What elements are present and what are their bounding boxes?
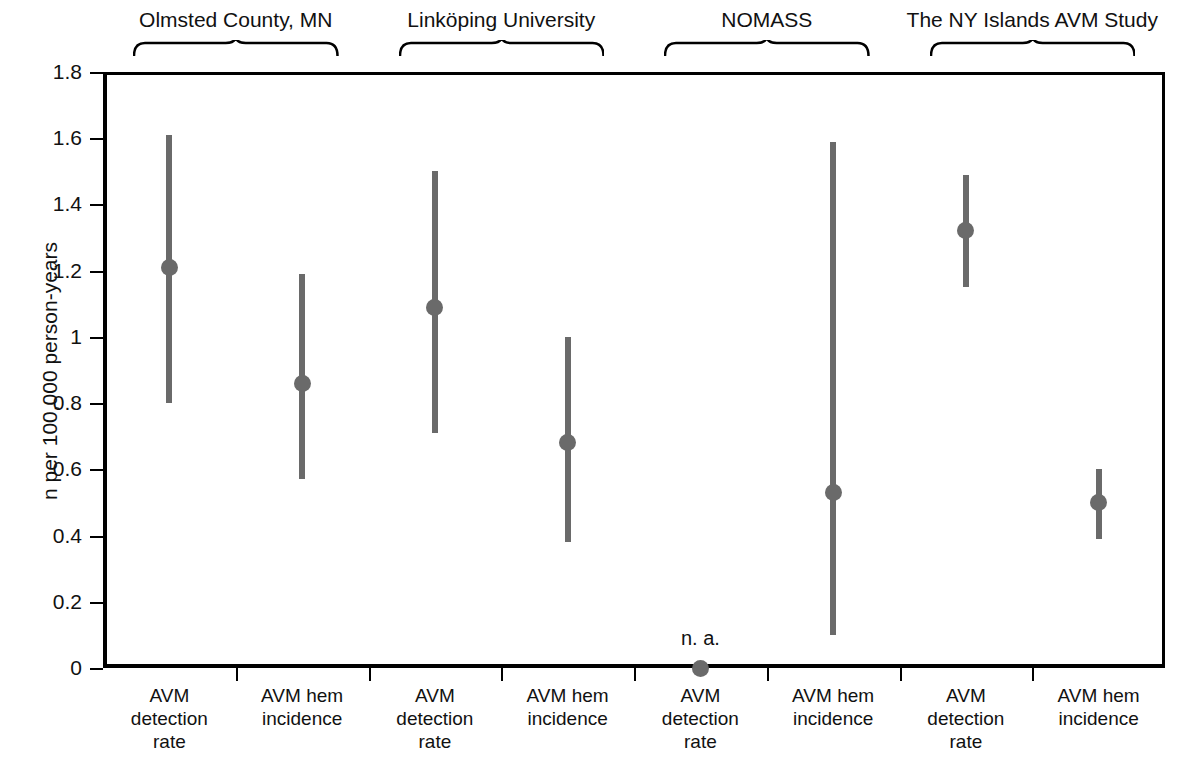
plot-area [103, 72, 1165, 668]
group-header-label: Olmsted County, MN [83, 8, 389, 32]
confidence-interval-bar [830, 142, 836, 635]
data-point-marker [825, 484, 842, 501]
x-axis-tick [369, 668, 371, 681]
x-axis-category-line: incidence [236, 707, 369, 730]
x-axis-category-line: rate [900, 730, 1033, 753]
x-axis-category-line: detection [900, 707, 1033, 730]
data-point-marker [692, 660, 709, 677]
x-axis-category-line: AVM hem [236, 684, 369, 707]
y-axis-tick [90, 72, 103, 74]
y-axis-tick [90, 337, 103, 339]
x-axis-category-label: AVMdetectionrate [369, 684, 502, 753]
y-axis-tick-label: 1.6 [22, 127, 82, 148]
y-axis-tick [90, 403, 103, 405]
page-edge [0, 768, 1188, 772]
y-axis-tick [90, 138, 103, 140]
x-axis-tick [236, 668, 238, 681]
x-axis-category-line: AVM hem [1032, 684, 1165, 707]
x-axis-category-label: AVMdetectionrate [634, 684, 767, 753]
y-axis-tick-label: 1 [22, 326, 82, 347]
chart-page: Olmsted County, MNLinköping UniversityNO… [0, 0, 1188, 772]
x-axis-category-line: incidence [1032, 707, 1165, 730]
y-axis-tick [90, 469, 103, 471]
x-axis-category-line: incidence [501, 707, 634, 730]
y-axis-tick [90, 668, 103, 670]
x-axis-tick [634, 668, 636, 681]
x-axis-tick [501, 668, 503, 681]
x-axis-category-label: AVM hemincidence [767, 684, 900, 730]
y-axis-tick [90, 536, 103, 538]
x-axis-category-line: AVM [369, 684, 502, 707]
y-axis-tick [90, 271, 103, 273]
group-header-label: The NY Islands AVM Study [880, 8, 1186, 32]
y-axis-tick [90, 602, 103, 604]
y-axis-tick-label: 1.2 [22, 260, 82, 281]
x-axis-category-line: AVM [634, 684, 767, 707]
data-point-marker [294, 375, 311, 392]
y-axis-tick-label: 1.4 [22, 193, 82, 214]
y-axis-tick-label: 0 [22, 657, 82, 678]
y-axis-tick-label: 0.4 [22, 525, 82, 546]
group-bracket [930, 40, 1136, 56]
group-bracket [664, 40, 870, 56]
data-point-marker [426, 299, 443, 316]
group-bracket [133, 40, 339, 56]
x-axis-tick [1032, 668, 1034, 681]
y-axis-tick-label: 0.2 [22, 591, 82, 612]
data-point-marker [161, 259, 178, 276]
y-axis-tick-label: 0.8 [22, 392, 82, 413]
data-point-marker [1090, 494, 1107, 511]
x-axis-category-line: AVM [900, 684, 1033, 707]
x-axis-category-line: AVM [103, 684, 236, 707]
y-axis-tick [90, 204, 103, 206]
y-axis-tick-label: 0.6 [22, 458, 82, 479]
x-axis-category-line: detection [103, 707, 236, 730]
y-axis-tick-label: 1.8 [22, 61, 82, 82]
x-axis-category-line: rate [103, 730, 236, 753]
x-axis-category-label: AVMdetectionrate [900, 684, 1033, 753]
x-axis-category-line: rate [634, 730, 767, 753]
x-axis-category-line: AVM hem [767, 684, 900, 707]
x-axis-category-line: detection [634, 707, 767, 730]
x-axis-category-line: detection [369, 707, 502, 730]
x-axis-category-label: AVM hemincidence [236, 684, 369, 730]
x-axis-category-label: AVMdetectionrate [103, 684, 236, 753]
x-axis-category-label: AVM hemincidence [501, 684, 634, 730]
x-axis-category-line: incidence [767, 707, 900, 730]
group-header-label: NOMASS [614, 8, 920, 32]
group-bracket [399, 40, 605, 56]
x-axis-category-label: AVM hemincidence [1032, 684, 1165, 730]
x-axis-tick [767, 668, 769, 681]
x-axis-tick [900, 668, 902, 681]
not-available-note: n. a. [634, 628, 767, 648]
group-header-label: Linköping University [349, 8, 655, 32]
x-axis-category-line: rate [369, 730, 502, 753]
x-axis-category-line: AVM hem [501, 684, 634, 707]
